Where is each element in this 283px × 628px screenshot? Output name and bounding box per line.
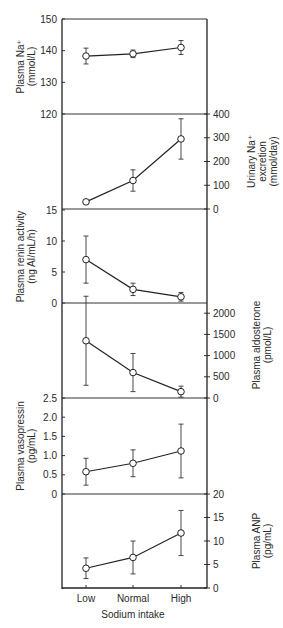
y-tick-label: 0 xyxy=(51,489,57,500)
y-tick-label: 500 xyxy=(213,371,230,382)
x-tick-label: Normal xyxy=(117,593,149,604)
data-point-normal xyxy=(130,369,137,376)
y-tick-label: 20 xyxy=(213,489,225,500)
y-tick-label: 15 xyxy=(46,205,58,216)
y-tick-label: 120 xyxy=(40,109,57,120)
y-tick-label: 1500 xyxy=(213,329,236,340)
y-tick-label: 100 xyxy=(213,180,230,191)
y-tick-label: 2.0 xyxy=(43,412,57,423)
data-point-low xyxy=(83,199,90,206)
y-tick-label: 140 xyxy=(40,45,57,56)
y-tick-label: 5 xyxy=(213,559,219,570)
data-point-high xyxy=(178,530,185,537)
y-tick-label: 300 xyxy=(213,132,230,143)
chart-frame xyxy=(62,19,207,589)
y-tick-label: 0 xyxy=(213,393,219,404)
data-point-high xyxy=(178,136,185,143)
y-axis-title-line: Plasma renin activity xyxy=(15,211,26,303)
y-tick-label: 0 xyxy=(51,298,57,309)
x-tick-label: Low xyxy=(77,593,96,604)
y-axis-title: Plasma Na⁺(mmol/L) xyxy=(15,40,37,94)
panel-plasma-renin-activity: 051015Plasma renin activity(ng AI/mL/h) xyxy=(15,205,207,309)
y-axis-title-line: Plasma vasopressin xyxy=(15,401,26,490)
y-tick-label: 10 xyxy=(213,536,225,547)
y-axis-title-line: (pmol/L) xyxy=(262,327,273,364)
y-tick-label: 0.5 xyxy=(43,469,57,480)
y-tick-label: 0 xyxy=(213,204,219,215)
y-axis-title-line: (pg/mL) xyxy=(262,524,273,558)
data-point-normal xyxy=(130,51,137,58)
data-point-low xyxy=(83,337,90,344)
data-point-high xyxy=(178,44,185,51)
y-tick-label: 130 xyxy=(40,77,57,88)
y-tick-label: 10 xyxy=(46,236,58,247)
x-axis: Sodium intake LowNormalHigh xyxy=(77,585,191,620)
y-tick-label: 15 xyxy=(213,512,225,523)
y-axis-title: Plasma vasopressin(pg/mL) xyxy=(15,401,37,490)
y-tick-label: 1.5 xyxy=(43,431,57,442)
data-point-high xyxy=(178,448,185,455)
panel-plasma-aldosterone: 0500100015002000Plasma aldosterone(pmol/… xyxy=(62,296,273,403)
y-tick-label: 200 xyxy=(213,156,230,167)
panel-plasma-anp: 05101520Plasma ANP(pg/mL) xyxy=(83,489,273,594)
y-tick-label: 400 xyxy=(213,109,230,120)
y-axis-title: Plasma renin activity(ng AI/mL/h) xyxy=(15,211,37,303)
data-point-high xyxy=(178,294,185,301)
chart-panels: 120130140150Plasma Na⁺(mmol/L)0100200300… xyxy=(15,14,279,594)
y-axis-title-line: (pg/mL) xyxy=(26,429,37,463)
x-tick-label: High xyxy=(171,593,192,604)
data-point-low xyxy=(83,53,90,60)
data-point-normal xyxy=(130,554,137,561)
y-tick-label: 0 xyxy=(213,583,219,594)
data-point-normal xyxy=(130,460,137,467)
y-tick-label: 2000 xyxy=(213,308,236,319)
y-tick-label: 1.0 xyxy=(43,450,57,461)
y-axis-title-line: Urinary Na⁺ xyxy=(246,135,257,188)
panel-urinary-na: 0100200300400Urinary Na⁺excretion(mmol/d… xyxy=(62,109,279,215)
panel-plasma-na: 120130140150Plasma Na⁺(mmol/L) xyxy=(15,14,207,120)
data-point-low xyxy=(83,256,90,263)
y-tick-label: 2.5 xyxy=(43,393,57,404)
y-axis-title-line: Plasma ANP xyxy=(251,513,262,569)
data-point-normal xyxy=(130,286,137,293)
y-axis-title: Plasma ANP(pg/mL) xyxy=(251,513,273,569)
series-line xyxy=(86,341,181,392)
y-axis-title: Urinary Na⁺excretion(mmol/day) xyxy=(246,135,279,188)
data-point-normal xyxy=(130,177,137,184)
data-point-low xyxy=(83,468,90,475)
y-axis-title-line: (mmol/day) xyxy=(268,136,279,186)
panel-plasma-vasopressin: 00.51.01.52.02.5Plasma vasopressin(pg/mL… xyxy=(15,393,207,500)
series-line xyxy=(86,533,181,568)
y-axis-title-line: (ng AI/mL/h) xyxy=(26,229,37,283)
series-line xyxy=(86,139,181,202)
y-axis-title-line: excretion xyxy=(257,141,268,182)
y-axis-title-line: (mmol/L) xyxy=(26,47,37,86)
y-axis-title-line: Plasma Na⁺ xyxy=(15,40,26,94)
y-tick-label: 150 xyxy=(40,14,57,25)
data-point-low xyxy=(83,565,90,572)
y-tick-label: 1000 xyxy=(213,350,236,361)
y-tick-label: 5 xyxy=(51,267,57,278)
sodium-intake-multipanel-chart: 120130140150Plasma Na⁺(mmol/L)0100200300… xyxy=(0,0,283,628)
data-point-high xyxy=(178,388,185,395)
y-axis-title: Plasma aldosterone(pmol/L) xyxy=(251,300,273,389)
y-axis-title-line: Plasma aldosterone xyxy=(251,300,262,389)
x-axis-title: Sodium intake xyxy=(101,609,165,620)
